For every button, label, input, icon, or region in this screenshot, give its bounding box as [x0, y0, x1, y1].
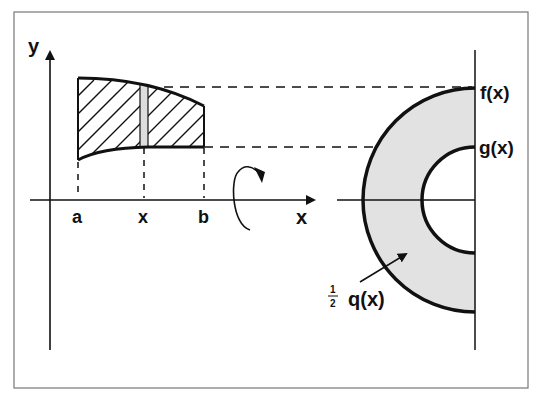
f-label: f(x) [480, 82, 510, 103]
svg-text:1: 1 [330, 284, 336, 295]
left-plot: y x a x b [4, 35, 314, 350]
svg-text:2: 2 [330, 298, 336, 309]
tick-label-x: x [138, 207, 148, 227]
tick-label-b: b [198, 207, 209, 227]
rotation-arrow-icon [234, 167, 265, 230]
tick-label-a: a [72, 207, 83, 227]
thin-strip [140, 70, 148, 150]
area-label: 1 2 q(x) [328, 284, 385, 310]
y-axis-label: y [28, 35, 40, 57]
g-label: g(x) [479, 137, 514, 158]
x-axis-label: x [296, 206, 307, 228]
solid-of-revolution-diagram: y x a x b f(x) g(x) 1 2 q(x) [0, 0, 538, 399]
svg-text:q(x): q(x) [348, 288, 385, 310]
